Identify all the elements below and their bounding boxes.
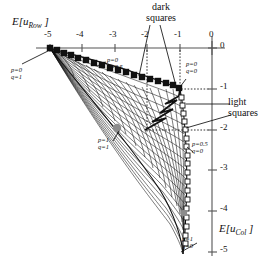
axis-row-title-tail: ]: [42, 15, 49, 27]
axis-row-title: E[uRow ]: [12, 16, 49, 30]
annotation-light-squares-line1: light: [228, 97, 258, 108]
annotation-leaders: [22, 25, 231, 252]
tick-col-4: -4: [220, 204, 228, 213]
tick-col-2: -2: [220, 123, 228, 132]
label-p1-q1: p=1 q=1: [98, 136, 109, 151]
annotation-dark-squares: dark squares: [130, 2, 192, 23]
tick-col-1: -1: [220, 82, 228, 91]
tick-col-3: -3: [220, 163, 228, 172]
label-p1-q0-q: q=0: [182, 242, 193, 249]
label-p05-q0-p: p=0.5: [192, 140, 208, 147]
label-p0-q1-p: p=0: [11, 66, 22, 73]
axis-row-title-main: E[u: [12, 15, 29, 27]
tick-row-2: -3: [109, 30, 117, 39]
label-p1-q0: p=1 q=0: [182, 235, 193, 250]
label-p0-q0-q: q=0: [186, 67, 197, 74]
label-p0-q0-p: p=0: [186, 60, 197, 67]
label-p0-q0: p=0 q=0: [186, 60, 197, 75]
tick-row-1: -4: [76, 30, 84, 39]
label-p0-q05: p=0 q=0.5: [107, 56, 123, 71]
label-p0-q1: p=0 q=1: [11, 66, 22, 81]
annotation-light-squares: light squares: [228, 97, 258, 118]
label-p1-q0-p: p=1: [182, 235, 193, 242]
curve-mesh: [50, 48, 186, 254]
figure-root: E[uRow ] E[uCol ] -5 -4 -3 -2 -1 0 0 -1 …: [0, 0, 279, 268]
label-p05-q0-q: q=0: [192, 147, 208, 154]
label-p0-q05-p: p=0: [107, 56, 123, 63]
label-p0-q05-q: q=0.5: [107, 63, 123, 70]
axis-col-title-main: E[u: [219, 222, 236, 234]
tick-col-0: 0: [220, 41, 225, 50]
axis-col-title-sub: Col: [236, 228, 247, 237]
tick-row-5: 0: [209, 30, 214, 39]
axis-row-title-sub: Row: [29, 21, 42, 30]
annotation-light-squares-line2: squares: [228, 108, 258, 119]
label-p0-q1-q: q=1: [11, 73, 22, 80]
annotation-dark-squares-line2: squares: [130, 13, 192, 24]
label-p1-q1-q: q=1: [98, 143, 109, 150]
tick-col-5: -5: [220, 245, 228, 254]
label-p1-q1-p: p=1: [98, 136, 109, 143]
axis-col-title: E[uCol ]: [219, 223, 253, 237]
gray-dot-interior: [113, 124, 121, 132]
tick-row-4: -1: [174, 30, 182, 39]
axis-col-title-tail: ]: [246, 222, 253, 234]
label-p05-q0: p=0.5 q=0: [192, 140, 208, 155]
leader-p0q0: [180, 79, 186, 87]
tick-row-0: -5: [44, 30, 52, 39]
annotation-dark-squares-line1: dark: [130, 2, 192, 13]
tick-row-3: -2: [141, 30, 149, 39]
leader-p0q1: [22, 50, 50, 64]
gray-dot-lower: [181, 210, 187, 216]
